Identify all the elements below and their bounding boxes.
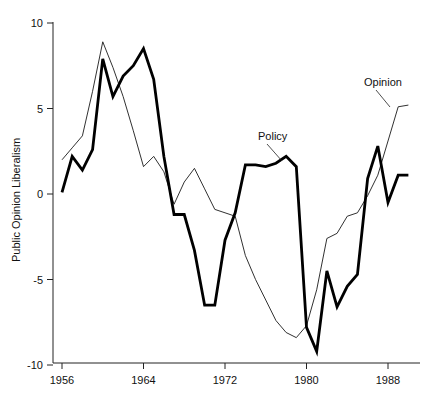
x-tick-label: 1988 xyxy=(376,374,400,386)
y-axis-ticks: 1050-5-10 xyxy=(27,17,53,371)
x-tick-label: 1956 xyxy=(50,374,74,386)
opinion-series-label: Opinion xyxy=(364,76,402,88)
y-tick-label: 5 xyxy=(37,103,43,115)
opinion-leader-line xyxy=(376,90,390,107)
y-tick-label: 0 xyxy=(37,188,43,200)
line-chart: 1050-5-10 19561964197219801988 Public Op… xyxy=(0,0,428,400)
y-tick-label: -5 xyxy=(33,274,43,286)
series-line-policy xyxy=(62,49,408,352)
chart-container: 1050-5-10 19561964197219801988 Public Op… xyxy=(0,0,428,400)
policy-series-label: Policy xyxy=(258,130,288,142)
series-line-opinion xyxy=(62,42,408,338)
y-tick-label: 10 xyxy=(31,17,43,29)
x-tick-label: 1980 xyxy=(294,374,318,386)
x-axis-ticks: 19561964197219801988 xyxy=(50,363,400,386)
y-tick-label: -10 xyxy=(27,359,43,371)
y-axis-title: Public Opinion Liberalism xyxy=(10,138,22,262)
x-tick-label: 1972 xyxy=(213,374,237,386)
policy-leader-line xyxy=(267,144,282,161)
x-tick-label: 1964 xyxy=(131,374,155,386)
